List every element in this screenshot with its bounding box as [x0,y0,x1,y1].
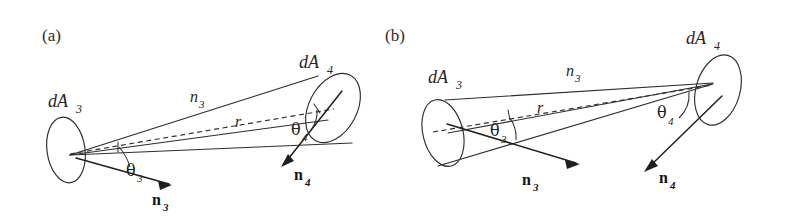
panel-a-normal4-arrowhead [281,154,294,167]
svg-text:4: 4 [327,63,333,77]
svg-text:n: n [522,171,531,188]
svg-text:4: 4 [714,39,720,53]
panel-a-normal4-label: n 4 [294,166,311,188]
panel-b-angle4-arc [679,92,689,118]
svg-text:θ: θ [291,120,301,139]
svg-text:dA: dA [428,67,449,87]
svg-text:n: n [152,191,161,208]
svg-text:4: 4 [669,179,676,191]
svg-text:4: 4 [302,131,308,143]
panel-a-tag: (a) [42,26,61,45]
svg-text:3: 3 [198,98,205,110]
panel-b-tag: (b) [385,26,405,45]
svg-text:3: 3 [136,172,143,184]
panel-b-area4-label: dA 4 [686,28,720,53]
panel-a: (a) [42,26,372,213]
panel-a-area3-label: dA 3 [48,91,82,116]
panel-a-normal3-shaft [76,158,169,184]
svg-text:4: 4 [304,176,311,188]
figure-container: (a) [0,0,794,217]
svg-text:n: n [294,166,303,183]
svg-text:3: 3 [75,102,82,116]
svg-text:dA: dA [686,28,707,48]
panel-a-distance-label: r [235,113,242,130]
svg-text:dA: dA [48,91,69,111]
panel-b-normal4-label: n 4 [659,169,676,191]
panel-a-area3-disk [43,115,90,186]
panel-b-area3-label: dA 3 [428,67,462,92]
panel-a-angle3-label: θ 3 [126,161,143,184]
panel-b-distance-label: r [537,99,544,116]
panel-b-normal3-label: n 3 [522,171,539,193]
svg-text:dA: dA [299,52,320,72]
svg-text:3: 3 [532,181,539,193]
svg-text:3: 3 [500,133,507,145]
svg-text:4: 4 [668,115,674,127]
diagram-canvas: (a) [0,0,794,217]
svg-text:n: n [659,169,668,186]
svg-text:3: 3 [455,78,462,92]
panel-b-area3-disk [415,95,470,171]
panel-a-normal3-label: n 3 [152,191,169,213]
svg-text:3: 3 [162,201,169,213]
svg-text:θ: θ [657,103,667,122]
panel-b-angle4-label: θ 4 [657,103,674,127]
panel-a-edge-label: n 3 [190,88,205,110]
panel-b-area4-disk [687,49,749,130]
panel-b: (b) dA 3 [385,26,749,193]
svg-text:n: n [566,62,574,79]
panel-b-angle3-label: θ 3 [490,121,507,145]
svg-text:n: n [190,88,198,105]
svg-text:θ: θ [490,121,500,140]
panel-a-area4-label: dA 4 [299,52,333,77]
panel-b-angle3-tick [508,110,510,120]
svg-text:θ: θ [126,161,136,180]
svg-text:3: 3 [574,72,581,84]
panel-b-edge-label: n 3 [566,62,581,84]
